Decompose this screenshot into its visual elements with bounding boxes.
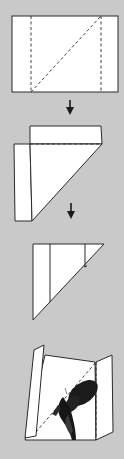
diagram-canvas	[0, 0, 124, 459]
arrow-down-icon	[66, 100, 74, 115]
step-4-envelope-with-butterfly	[25, 345, 113, 440]
arrow-down-icon	[67, 203, 75, 219]
step-4-label: Open envelope with butterfly specimen pl…	[0, 0, 1, 1]
step-2-side-folded	[14, 126, 102, 221]
folding-diagram: Folding a paper envelope for a butterfly…	[0, 0, 124, 459]
step-1-flat-paper	[12, 16, 118, 92]
step-3-triangle-envelope	[33, 244, 104, 320]
